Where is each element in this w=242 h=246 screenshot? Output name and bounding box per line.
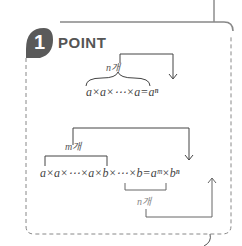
formula1-count-label: n개 xyxy=(106,59,120,74)
badge-number: 1 xyxy=(34,31,45,54)
section-title: POINT xyxy=(58,34,106,51)
formula2-count-label-a: m개 xyxy=(65,138,81,153)
formula1-expression: a×a×⋯×a=aⁿ xyxy=(86,85,158,100)
point-box: 1 POINT n개 a×a×⋯×a=aⁿ m개 a×a×⋯×a×b×⋯×b=a… xyxy=(0,0,242,246)
formula2-expression: a×a×⋯×a×b×⋯×b=aᵐ×bⁿ xyxy=(40,166,180,181)
formula2-count-label-b: n개 xyxy=(137,193,151,208)
